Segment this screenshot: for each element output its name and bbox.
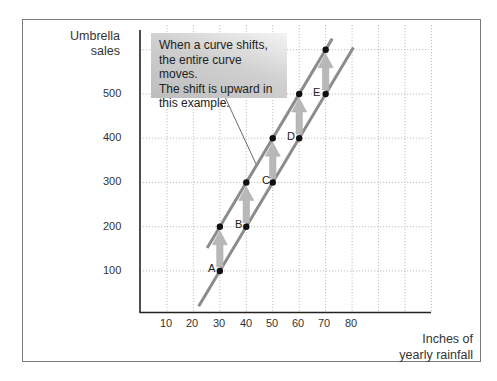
x-tick-70: 70 (318, 317, 330, 329)
annotation-callout: When a curve shifts, the entire curve mo… (151, 33, 287, 98)
x-tick-60: 60 (292, 317, 304, 329)
shifted-curve-point (270, 135, 276, 141)
callout-line-1: When a curve shifts, (159, 38, 279, 53)
x-tick-50: 50 (266, 317, 278, 329)
shifted-curve-point (322, 47, 328, 53)
original-curve-point (322, 91, 328, 97)
x-axis-label-line1: Inches of (355, 331, 473, 347)
y-tick-300: 300 (103, 175, 121, 187)
y-axis-label-line1: Umbrella (70, 29, 120, 44)
point-label-e: E (313, 86, 320, 98)
y-tick-100: 100 (103, 264, 121, 276)
shifted-curve-point (243, 179, 249, 185)
point-label-c: C (262, 174, 270, 186)
x-tick-20: 20 (186, 317, 198, 329)
y-tick-500: 500 (103, 87, 121, 99)
x-tick-30: 30 (213, 317, 225, 329)
callout-line-2: the entire curve moves. (159, 53, 279, 82)
y-tick-200: 200 (103, 220, 121, 232)
original-curve-point (217, 268, 223, 274)
x-tick-80: 80 (345, 317, 357, 329)
shifted-curve-point (217, 224, 223, 230)
x-axis-label: Inches of yearly rainfall (355, 331, 473, 363)
original-curve-point (270, 179, 276, 185)
callout-line-4: this example. (159, 96, 279, 111)
original-curve-point (243, 224, 249, 230)
x-axis-label-line2: yearly rainfall (355, 347, 473, 363)
point-label-a: A (208, 262, 215, 274)
original-curve-point (296, 135, 302, 141)
x-tick-10: 10 (160, 317, 172, 329)
y-axis-label: Umbrella sales (70, 29, 120, 59)
callout-line-3: The shift is upward in (159, 82, 279, 97)
shifted-curve-point (296, 91, 302, 97)
y-tick-400: 400 (103, 131, 121, 143)
y-axis-label-line2: sales (70, 44, 120, 59)
point-label-b: B (235, 218, 242, 230)
x-tick-40: 40 (240, 317, 252, 329)
point-label-d: D (287, 130, 295, 142)
